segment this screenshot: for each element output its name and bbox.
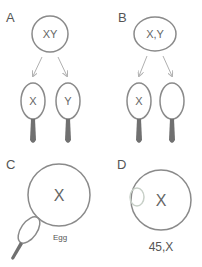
parent-cell-a-label: XY xyxy=(43,28,58,40)
egg-label: Egg xyxy=(53,233,67,242)
egg-chromosome-label: X xyxy=(54,187,65,204)
arrow-a-left xyxy=(33,57,42,76)
panel-b: B X,Y X xyxy=(118,10,184,143)
sperm-tail-icon xyxy=(11,242,23,260)
panel-a: A XY X Y xyxy=(6,10,80,143)
panel-label-d: D xyxy=(117,157,126,172)
karyotype-label: 45,X xyxy=(149,240,174,254)
lost-chromosome-icon xyxy=(130,188,144,206)
sperm-tail-icon xyxy=(136,119,142,143)
panel-label-b: B xyxy=(118,10,127,25)
sperm-b-empty xyxy=(160,83,184,119)
arrow-b-right xyxy=(163,56,172,76)
sperm-a-x-label: X xyxy=(29,95,37,107)
sperm-tail-icon xyxy=(169,119,175,143)
sperm-a-y-label: Y xyxy=(64,95,72,107)
sperm-fertilizing xyxy=(14,213,44,247)
panel-d: D X 45,X xyxy=(117,157,191,254)
panel-label-a: A xyxy=(6,10,15,25)
arrow-a-right xyxy=(58,57,67,76)
sperm-tail-icon xyxy=(30,119,36,143)
arrow-b-left xyxy=(139,56,147,76)
zygote-chromosome-label: X xyxy=(156,192,167,209)
parent-cell-b-label: X,Y xyxy=(146,28,164,40)
sperm-b-x-label: X xyxy=(135,95,143,107)
sperm-tail-icon xyxy=(65,119,71,143)
diagram-canvas: A XY X Y B X,Y X C X Egg xyxy=(0,0,202,267)
panel-label-c: C xyxy=(6,157,15,172)
panel-c: C X Egg xyxy=(6,157,90,260)
